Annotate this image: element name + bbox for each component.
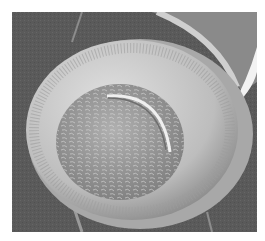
sem-micrograph [12,12,257,232]
diatom-illustration [12,12,257,232]
